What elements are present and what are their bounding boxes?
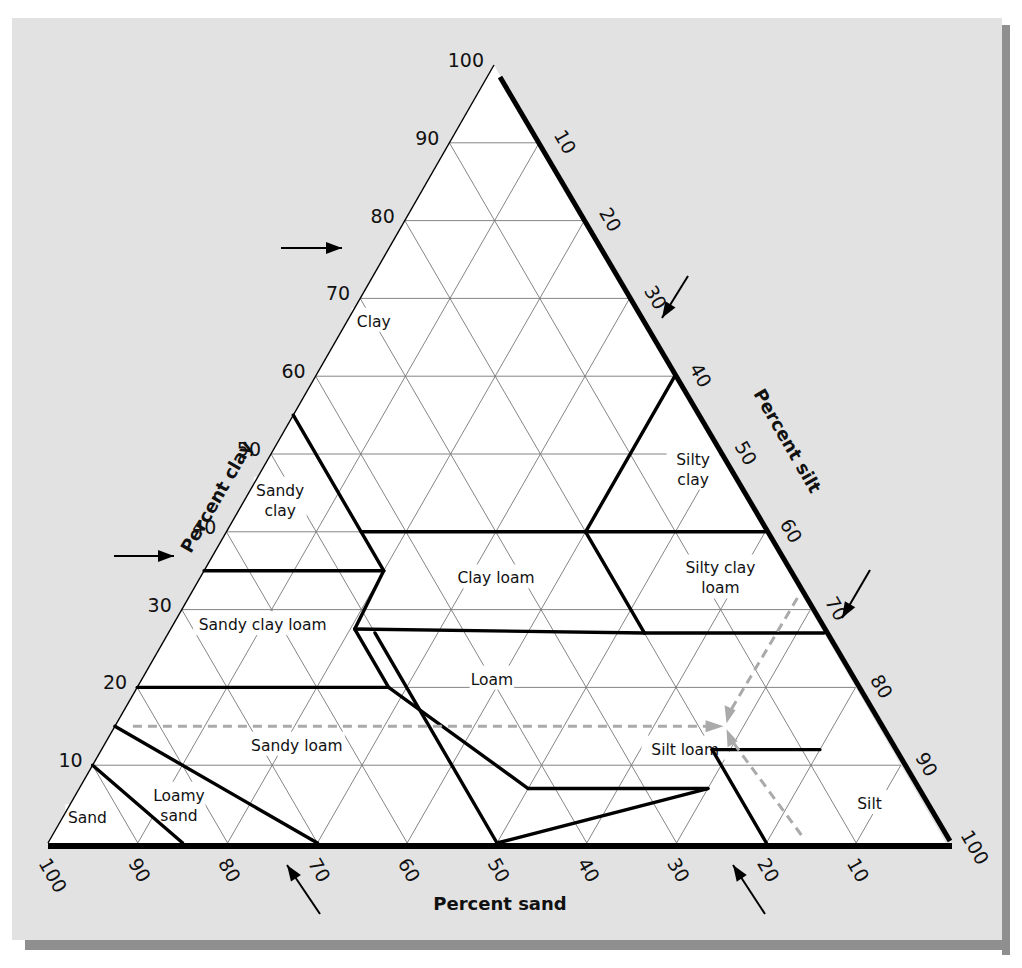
region-label-text: Silt loam [651,741,719,759]
silt-tick-label: 100 [957,826,994,868]
region-label-text: Silty clay [685,559,755,577]
sand-tick-label: 50 [484,854,515,886]
silt-tick-label: 90 [911,748,942,780]
sand-tick-label: 80 [214,854,245,886]
arrow-icon-sand-right-head [733,865,747,882]
region-label-text: clay [677,471,709,489]
region-label-text: Sandy [256,482,304,500]
sand-tick-label: 30 [663,854,694,886]
region-label: Sandy loam [249,732,345,756]
clay-tick-label: 80 [371,205,395,227]
region-label: Loamysand [152,782,205,826]
region-label: Loam [470,666,514,690]
sand-tick-label: 20 [753,854,784,886]
silt-tick-label: 80 [866,670,897,702]
sand-tick-label: 100 [35,854,72,896]
silt-tick-label: 50 [731,437,762,469]
silt-tick-label: 40 [685,359,716,391]
region-label-text: Silty [676,451,710,469]
region-label-text: loam [701,579,739,597]
silt-tick-label: 60 [776,515,807,547]
region-label-text: Sandy clay loam [199,616,327,634]
sand-tick-label: 40 [573,854,604,886]
clay-tick-label: 60 [281,360,305,382]
region-label: Siltyclay [667,446,720,490]
region-label-text: clay [264,502,296,520]
clay-tick-label: 20 [103,671,127,693]
arrow-icon-sand-left-head [287,865,301,882]
clay-tick-label: 30 [148,594,172,616]
region-label-text: Silt [857,795,882,813]
clay-tick-label: 90 [415,127,439,149]
clay-tick-label: 70 [326,282,350,304]
region-label: Sandy clay loam [193,611,332,635]
region-label-text: Loamy [153,787,205,805]
silt-axis-title: Percent silt [749,385,826,497]
silt-tick-label: 20 [595,204,626,236]
region-label-text: Loam [471,671,513,689]
region-label: Clay loam [452,564,539,588]
region-label-text: Sandy loam [251,737,343,755]
arrow-icon-clay-lower-head [158,550,174,562]
region-label-text: Sand [68,809,107,827]
clay-tick-label: 100 [448,49,484,71]
sand-tick-label: 10 [843,854,874,886]
soil-texture-triangle: ClaySandyclaySiltyclayClay loamSilty cla… [0,0,1022,968]
region-label-text: Clay loam [457,569,534,587]
region-label-text: Clay [357,313,391,331]
sand-tick-label: 70 [304,854,335,886]
clay-tick-label: 10 [58,749,82,771]
sand-axis-title: Percent sand [433,893,566,914]
silt-tick-label: 10 [550,126,581,158]
region-label-text: sand [160,807,197,825]
region-label: Clay [352,308,396,332]
sand-tick-label: 60 [394,854,425,886]
region-label: Silty clayloam [672,554,768,598]
sand-tick-label: 90 [124,854,155,886]
region-label: Sandyclay [254,477,307,521]
arrow-icon-clay-upper-head [326,242,342,254]
region-label: Silt [847,790,891,814]
region-label: Sand [65,804,109,828]
